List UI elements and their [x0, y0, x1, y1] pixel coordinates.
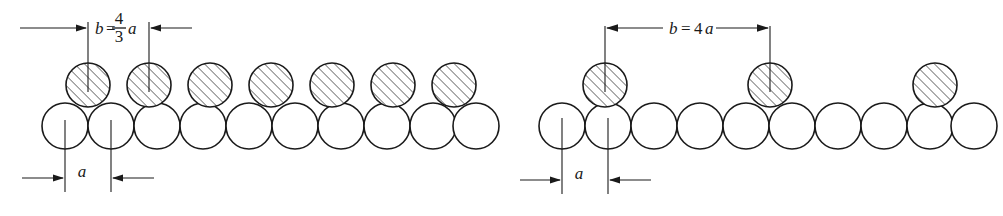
substrate-sphere: [677, 103, 723, 149]
substrate-sphere: [272, 103, 318, 149]
dimension-b-unit: a: [128, 19, 137, 38]
adsorbate-sphere: [249, 63, 293, 107]
substrate-sphere: [364, 103, 410, 149]
dimension-b-unit: a: [705, 19, 714, 38]
dimension-b-symbol: b: [669, 19, 678, 38]
dimension-a-symbol: a: [78, 162, 87, 181]
lattice-epitaxy-diagram: b = 4 3 a a: [0, 0, 1003, 216]
substrate-sphere: [226, 103, 272, 149]
substrate-sphere: [453, 103, 499, 149]
dimension-a-symbol: a: [575, 164, 584, 183]
substrate-sphere: [318, 103, 364, 149]
adsorbate-sphere: [310, 63, 354, 107]
substrate-sphere: [723, 103, 769, 149]
dimension-b-equals: =: [681, 19, 691, 38]
substrate-sphere: [410, 103, 456, 149]
substrate-sphere: [180, 103, 226, 149]
fraction-numerator: 4: [115, 9, 124, 28]
adsorbate-sphere: [371, 63, 415, 107]
dimension-b-symbol: b: [95, 19, 104, 38]
adsorbate-sphere: [188, 63, 232, 107]
adsorbate-sphere: [913, 63, 957, 107]
substrate-sphere: [951, 103, 997, 149]
substrate-sphere: [907, 103, 953, 149]
substrate-sphere: [861, 103, 907, 149]
dimension-b-multiplier: 4: [694, 19, 703, 38]
substrate-sphere: [815, 103, 861, 149]
substrate-sphere: [134, 103, 180, 149]
substrate-sphere: [769, 103, 815, 149]
figure-root: b = 4 3 a a: [0, 0, 1003, 216]
substrate-sphere: [631, 103, 677, 149]
fraction-denominator: 3: [115, 27, 124, 46]
adsorbate-sphere: [432, 63, 476, 107]
